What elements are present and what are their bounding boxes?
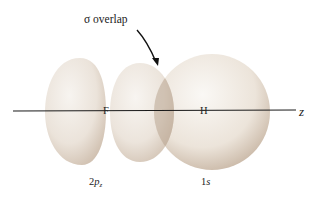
orbital-subscript: z (100, 181, 103, 189)
overlap-arrow (137, 30, 156, 62)
orbital-letter: s (206, 176, 210, 187)
axis-label-z: z (299, 104, 304, 120)
sigma-overlap-diagram (0, 0, 320, 198)
orbital-label-1s: 1s (201, 176, 210, 187)
overlap-arrow-head (152, 58, 159, 66)
overlap-text: overlap (90, 13, 127, 25)
orbital-label-2pz: 2pz (89, 176, 102, 189)
sigma-overlap-label: σ overlap (84, 13, 128, 25)
2pz-left-lobe (45, 58, 106, 165)
atom-label-f: F (103, 105, 109, 116)
atom-label-h: H (200, 105, 208, 116)
